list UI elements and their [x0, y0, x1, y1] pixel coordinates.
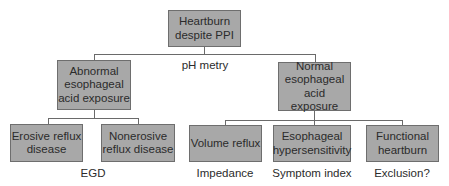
node-volume-reflux: Volume reflux [189, 125, 262, 162]
root-stem [204, 47, 205, 54]
root-test-label: pH metry [182, 59, 229, 71]
node-abnormal-acid-exposure: Abnormal esophageal acid exposure [57, 60, 131, 110]
left-branch-stem [94, 110, 95, 118]
impedance-test-label: Impedance [197, 167, 254, 179]
node-functional-heartburn: Functional heartburn [366, 125, 439, 162]
node-esophageal-hypersensitivity: Esophageal hypersensitivity [273, 125, 351, 162]
node-nonerosive-reflux-disease: Nonerosive reflux disease [101, 124, 175, 162]
exclusion-test-label: Exclusion? [374, 167, 430, 179]
node-normal-acid-exposure: Normal esophageal acid exposure [278, 62, 351, 111]
node-erosive-reflux-disease: Erosive reflux disease [10, 124, 83, 162]
symptom-index-test-label: Symptom index [272, 167, 351, 179]
root-node-heartburn-despite-ppi: Heartburn despite PPI [168, 10, 241, 47]
egd-test-label: EGD [81, 167, 106, 179]
root-horizontal-connector [94, 54, 316, 55]
left-children-connector [48, 118, 139, 119]
